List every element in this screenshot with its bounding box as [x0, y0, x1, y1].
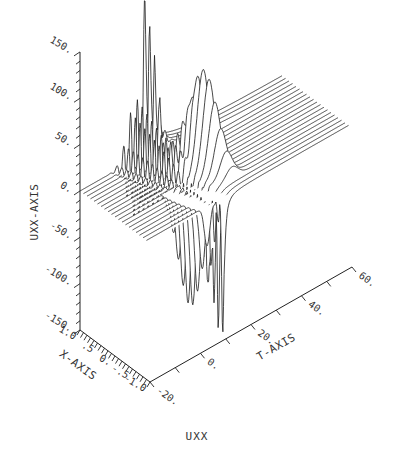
tick-mark [76, 247, 80, 250]
tick-mark [76, 117, 80, 120]
tick-mark [76, 135, 80, 138]
tick-mark [76, 274, 80, 277]
tick-mark [76, 209, 80, 212]
tick-mark [76, 163, 80, 166]
tick-label: 100. [48, 80, 74, 102]
tick-mark [74, 191, 80, 195]
tick-mark [81, 333, 84, 338]
tick-label: 150. [48, 34, 74, 56]
uxx-surface-plot: 150.100.50.0.-50.-100.-150.1.0.50.-.5-1.… [0, 0, 394, 452]
tick-mark [175, 368, 179, 373]
tick-mark [201, 353, 205, 358]
tick-mark [76, 154, 80, 157]
tick-label: -1.0 [122, 372, 148, 394]
tick-mark [76, 321, 80, 324]
tick-mark [74, 237, 80, 241]
tick-mark [352, 267, 356, 272]
tick-mark [302, 296, 306, 301]
tick-mark [76, 219, 80, 222]
x-axis-title: X-AXIS [57, 347, 99, 383]
tick-mark [226, 339, 230, 344]
tick-label: -20. [155, 385, 181, 408]
tick-label: 40. [306, 298, 327, 317]
tick-label: 0. [59, 179, 75, 195]
tick-label: 1.0 [57, 323, 78, 342]
tick-mark [76, 61, 80, 64]
tick-mark [76, 89, 80, 92]
tick-mark [76, 228, 80, 231]
tick-mark [327, 281, 331, 286]
tick-mark [76, 311, 80, 314]
uxx-axis-title: UXX-AXIS [28, 184, 41, 241]
tick-mark [76, 200, 80, 203]
tick-mark [76, 256, 80, 259]
surface-traces [80, 1, 349, 332]
tick-mark [76, 80, 80, 83]
tick-mark [76, 302, 80, 305]
chart-caption: UXX [0, 430, 394, 443]
tick-label: -50. [48, 219, 74, 241]
tick-mark [98, 346, 101, 351]
tick-mark [74, 284, 80, 288]
tick-label: 0. [205, 356, 221, 372]
tick-mark [76, 293, 80, 296]
tick-mark [251, 325, 255, 330]
tick-mark [76, 126, 80, 129]
tick-label: 50. [53, 130, 74, 149]
tick-mark [76, 182, 80, 185]
tick-mark [76, 265, 80, 268]
tick-mark [74, 145, 80, 149]
tick-mark [76, 172, 80, 175]
tick-mark [276, 310, 280, 315]
tick-mark [74, 52, 80, 56]
tick-label: -100. [43, 263, 75, 288]
tick-mark [74, 98, 80, 102]
tick-label: 60. [357, 270, 378, 289]
tick-mark [76, 70, 80, 73]
tick-mark [76, 108, 80, 111]
tick-mark [150, 382, 154, 387]
